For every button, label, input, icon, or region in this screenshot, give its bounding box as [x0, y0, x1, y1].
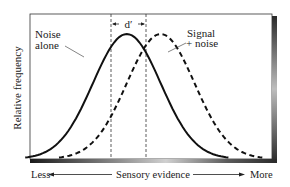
- y-axis-label: Relative frequency: [11, 46, 23, 130]
- x-axis: Less Sensory evidence More: [31, 169, 273, 180]
- frame-shadow-right: [272, 16, 277, 162]
- x-axis-less-label: Less: [31, 169, 50, 180]
- frame-shadow-bottom: [30, 159, 277, 163]
- noise-label-line2: alone: [35, 39, 59, 51]
- x-axis-title: Sensory evidence: [116, 169, 190, 180]
- x-axis-more-label: More: [250, 169, 273, 180]
- plot-frame: [30, 14, 277, 163]
- sdt-diagram: d′ Noise alone Signal + noise Relative f…: [0, 0, 290, 187]
- signal-label-line2: + noise: [186, 37, 218, 49]
- right-arrowhead-icon: [239, 173, 245, 177]
- dprime-label: d′: [125, 18, 133, 30]
